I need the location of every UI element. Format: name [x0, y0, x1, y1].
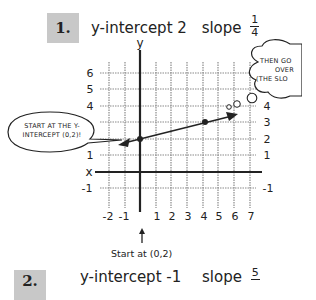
svg-text:-1: -1 — [119, 210, 130, 223]
svg-text:7: 7 — [248, 210, 255, 223]
arrowhead-right — [226, 112, 238, 121]
right-callout-text: THEN GO OVER (THE SLO — [256, 57, 316, 84]
svg-text:-2: -2 — [103, 210, 114, 223]
x-tick-labels: -2 -1 1 2 3 4 5 6 7 — [103, 210, 255, 223]
svg-text:1: 1 — [87, 149, 94, 162]
start-caption: Start at (0,2) — [111, 248, 172, 259]
caption-arrowhead — [139, 228, 145, 234]
svg-text:6: 6 — [232, 210, 239, 223]
svg-text:3: 3 — [185, 210, 192, 223]
title-slope-label-2: slope — [202, 268, 242, 286]
svg-text:4: 4 — [201, 210, 208, 223]
right-callout-line3: (THE SLO — [256, 75, 316, 84]
svg-text:6: 6 — [87, 67, 94, 80]
left-callout-line1: START AT THE Y- — [14, 122, 90, 131]
fraction-bar-2 — [251, 279, 260, 280]
grid — [100, 62, 256, 208]
title-intercept-2: y-intercept -1 — [80, 268, 181, 286]
left-callout-line2: INTERCEPT (0,2)! — [14, 131, 90, 140]
problem-number-2: 2. — [22, 272, 38, 290]
right-callout-line2: OVER — [256, 66, 316, 75]
svg-text:4: 4 — [87, 100, 94, 113]
problem-title-2: y-intercept -1 slope 5 — [80, 268, 260, 286]
y-axis-label: y — [136, 36, 143, 50]
point-slope — [202, 119, 208, 125]
svg-text:5: 5 — [87, 83, 94, 96]
svg-text:3: 3 — [264, 116, 271, 129]
x-axis-label: x — [85, 165, 92, 179]
svg-text:1: 1 — [154, 210, 161, 223]
svg-text:2: 2 — [169, 210, 176, 223]
svg-text:2: 2 — [264, 133, 271, 146]
svg-text:5: 5 — [216, 210, 223, 223]
left-callout-text: START AT THE Y- INTERCEPT (0,2)! — [14, 122, 90, 140]
slope-numerator-2: 5 — [252, 267, 259, 279]
svg-text:-1: -1 — [82, 182, 93, 195]
svg-text:-1: -1 — [263, 182, 274, 195]
right-callout-line1: THEN GO — [256, 57, 316, 66]
svg-text:1: 1 — [264, 149, 271, 162]
y-tick-labels-right: 4 3 2 1 -1 — [263, 100, 274, 195]
slope-fraction-2: 5 — [251, 267, 260, 280]
svg-text:4: 4 — [264, 100, 271, 113]
point-y-intercept — [137, 136, 143, 142]
problem-number-badge-2: 2. — [14, 270, 46, 300]
